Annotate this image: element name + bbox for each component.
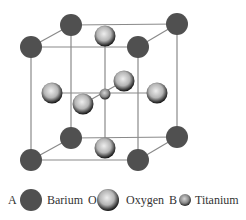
oxygen-atom-icon: [114, 71, 135, 92]
legend-item-titanium: B Titanium: [169, 193, 239, 207]
legend-label: Barium: [47, 193, 84, 207]
legend-item-oxygen: O Oxygen: [88, 189, 164, 211]
barium-atom-icon: [20, 36, 42, 58]
legend-label: Titanium: [195, 193, 239, 207]
barium-atom-icon: [166, 13, 188, 35]
legend-site-label: A: [8, 193, 17, 207]
legend-label: Oxygen: [126, 193, 164, 207]
barium-atom-icon: [127, 36, 149, 58]
barium-atom-icon: [60, 14, 82, 36]
titanium-atom-icon: [179, 194, 191, 206]
oxygen-atom-icon: [147, 83, 168, 104]
oxygen-atoms-front: [73, 94, 116, 159]
oxygen-atom-icon: [97, 189, 119, 211]
legend-item-barium: A Barium: [8, 189, 84, 211]
barium-atom-icon: [127, 149, 149, 171]
legend-site-label: O: [88, 193, 97, 207]
barium-atom-icon: [20, 189, 42, 211]
oxygen-atom-icon: [42, 83, 63, 104]
oxygen-atom-icon: [95, 26, 116, 47]
barium-atom-icon: [60, 127, 82, 149]
legend: A Barium O Oxygen B Titanium: [8, 189, 239, 211]
oxygen-atom-icon: [73, 94, 94, 115]
titanium-atom-icon: [100, 89, 111, 100]
legend-site-label: B: [169, 193, 177, 207]
barium-atom-icon: [20, 149, 42, 171]
barium-atom-icon: [166, 126, 188, 148]
oxygen-atom-icon: [95, 138, 116, 159]
perovskite-unit-cell-diagram: A Barium O Oxygen B Titanium: [0, 0, 246, 220]
